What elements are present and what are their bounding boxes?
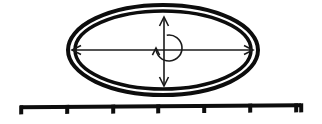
diagram-canvas bbox=[0, 0, 322, 124]
scale-tick bbox=[156, 104, 160, 113]
scale-tick bbox=[294, 103, 298, 112]
scale-tick bbox=[202, 104, 206, 113]
scale-tick bbox=[248, 104, 252, 113]
scale-tick bbox=[111, 105, 115, 114]
oval-platform-diagram bbox=[0, 0, 322, 124]
scale-tick bbox=[19, 105, 23, 114]
scale-tick bbox=[299, 103, 303, 112]
scale-tick bbox=[65, 105, 69, 114]
